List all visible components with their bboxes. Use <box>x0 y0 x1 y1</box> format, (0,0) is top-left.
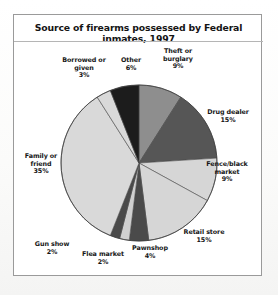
label-pawnshop-line1: Pawnshop <box>132 244 168 252</box>
label-retail-line1: Retail store <box>184 228 225 236</box>
label-flea-market: Flea market 2% <box>79 251 127 266</box>
label-other-line1: Other <box>121 56 141 64</box>
label-theft-pct: 9% <box>156 63 200 71</box>
label-borrowed-pct: 3% <box>56 72 112 80</box>
label-flea-line1: Flea market <box>82 250 124 258</box>
label-gunshow-pct: 2% <box>30 249 74 257</box>
label-gunshow-line1: Gun show <box>35 240 69 248</box>
label-family-or-friend: Family or friend 35% <box>19 153 63 176</box>
label-retail-pct: 15% <box>177 237 231 245</box>
pie-slice-group <box>61 85 217 241</box>
label-fence-black-market: Fence/black market 9% <box>198 161 256 184</box>
screenshot-page: Source of firearms possessed by Federal … <box>0 0 278 295</box>
label-pawnshop-pct: 4% <box>127 253 173 261</box>
label-borrowed-or-given: Borrowed or given 3% <box>56 57 112 80</box>
pie-chart-area: Borrowed or given 3% Other 6% Theft or b… <box>14 15 263 277</box>
label-family-pct: 35% <box>19 168 63 176</box>
label-drug-line1: Drug dealer <box>207 108 249 116</box>
label-fence-pct: 9% <box>198 176 256 184</box>
label-retail-store: Retail store 15% <box>177 229 231 244</box>
label-pawnshop: Pawnshop 4% <box>127 245 173 260</box>
label-other-pct: 6% <box>114 65 148 73</box>
label-theft-or-burglary: Theft or burglary 9% <box>156 48 200 71</box>
label-gun-show: Gun show 2% <box>30 241 74 256</box>
label-flea-pct: 2% <box>79 259 127 267</box>
chart-panel: Source of firearms possessed by Federal … <box>13 14 262 276</box>
label-drug-pct: 15% <box>200 117 256 125</box>
label-other: Other 6% <box>114 57 148 72</box>
label-drug-dealer: Drug dealer 15% <box>200 109 256 124</box>
